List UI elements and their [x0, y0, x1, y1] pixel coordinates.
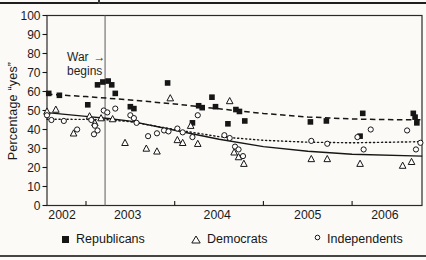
independents-data-point: [61, 118, 66, 123]
republicans-data-point: [95, 82, 101, 88]
democrats-data-point: [399, 162, 406, 168]
y-tick-label: 10: [27, 180, 41, 194]
independents-data-point: [95, 128, 100, 133]
independents-data-point: [325, 141, 330, 146]
x-tick-label: 2003: [114, 208, 142, 222]
republicans-data-point: [46, 91, 52, 97]
x-tick-label: 2002: [48, 208, 76, 222]
independents-data-point: [180, 130, 185, 135]
independents-data-point: [105, 110, 110, 115]
democrats-data-point: [154, 148, 161, 154]
war-annotation-text: War: [67, 50, 89, 64]
republicans-data-point: [242, 118, 248, 124]
x-tick-label: 2006: [371, 208, 399, 222]
democrats-data-point: [143, 145, 150, 151]
y-tick-label: 90: [27, 28, 41, 42]
republicans-data-point: [57, 93, 63, 99]
democrats-data-point: [194, 140, 201, 146]
republicans-data-point: [237, 109, 243, 115]
y-tick-label: 20: [27, 161, 41, 175]
republicans-data-point: [109, 82, 115, 88]
independents-data-point: [166, 129, 171, 134]
republicans-data-point: [85, 102, 91, 108]
republicans-data-point: [165, 80, 171, 86]
republicans-data-point: [199, 105, 205, 111]
right-arrow-icon: →: [94, 50, 106, 64]
independents-data-point: [418, 140, 423, 145]
republicans-data-point: [360, 111, 366, 117]
war-annotation-line1: War→: [67, 51, 106, 65]
independents-data-point: [404, 128, 409, 133]
republicans-data-point: [225, 121, 231, 127]
war-annotation-line2: begins: [67, 65, 106, 79]
iraq-war-support-by-party-chart: 0102030405060708090100200220032004200520…: [0, 0, 426, 260]
republicans-data-point: [308, 119, 314, 125]
independents-data-point: [145, 134, 150, 139]
trend-line-independents: [47, 119, 422, 143]
figure-page: 0102030405060708090100200220032004200520…: [0, 0, 426, 260]
democrats-data-point: [122, 139, 129, 145]
independents-data-point: [413, 147, 418, 152]
republicans-data-point: [209, 94, 215, 100]
democrats-data-point: [324, 155, 331, 161]
independents-data-point: [44, 113, 49, 118]
democrats-data-point: [408, 158, 415, 164]
y-tick-label: 80: [27, 47, 41, 61]
democrats-data-point: [308, 155, 315, 161]
y-tick-label: 30: [27, 142, 41, 156]
independents-data-point: [134, 120, 139, 125]
democrats-data-point: [226, 98, 233, 104]
independents-data-point: [175, 126, 180, 131]
independents-data-point: [49, 117, 54, 122]
y-tick-label: 70: [27, 66, 41, 80]
democrats-data-point: [241, 160, 248, 166]
y-axis-title: Percentage “yes”: [6, 62, 20, 160]
war-begins-annotation: War→ begins: [67, 51, 106, 78]
democrats-data-point: [167, 95, 174, 101]
bottom-rule: [0, 255, 426, 257]
independents-data-point: [222, 133, 227, 138]
independents-data-point: [227, 135, 232, 140]
y-tick-label: 0: [34, 199, 41, 213]
y-tick-label: 100: [20, 9, 40, 23]
y-tick-label: 50: [27, 104, 41, 118]
independents-data-point: [113, 106, 118, 111]
republicans-data-point: [414, 120, 420, 126]
democrats-data-point: [53, 106, 60, 112]
independents-data-point: [236, 147, 241, 152]
x-tick-label: 2005: [294, 208, 322, 222]
x-tick-label: 2004: [204, 208, 232, 222]
independents-data-point: [368, 127, 373, 132]
republicans-data-point: [112, 91, 118, 97]
republicans-data-point: [412, 114, 418, 120]
y-tick-label: 40: [27, 123, 41, 137]
republicans-data-point: [213, 104, 219, 110]
independents-data-point: [355, 135, 360, 140]
independents-data-point: [190, 135, 195, 140]
republicans-data-point: [131, 106, 137, 112]
independents-data-point: [361, 147, 366, 152]
independents-data-point: [309, 138, 314, 143]
democrats-data-point: [174, 136, 181, 142]
independents-data-point: [154, 131, 159, 136]
y-tick-label: 60: [27, 85, 41, 99]
republicans-data-point: [100, 79, 106, 85]
independents-data-point: [75, 127, 80, 132]
independents-data-point: [195, 113, 200, 118]
independents-data-point: [89, 117, 94, 122]
independents-data-point: [240, 154, 245, 159]
republicans-data-point: [324, 118, 330, 124]
democrats-data-point: [357, 160, 364, 166]
